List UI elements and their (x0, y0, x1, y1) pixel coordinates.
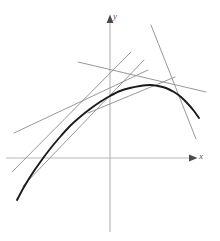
x-axis-arrowhead (189, 155, 198, 162)
x-axis-label: x (199, 152, 203, 161)
tangent-line-plot (0, 0, 220, 241)
y-axis-label: y (113, 12, 117, 21)
figure-container: x y (0, 0, 220, 241)
tangent-line-5 (151, 25, 196, 139)
main-curve (17, 85, 199, 200)
tangent-line-3 (23, 60, 144, 186)
tangent-line-4 (78, 62, 206, 92)
tangent-line-1 (14, 70, 148, 133)
